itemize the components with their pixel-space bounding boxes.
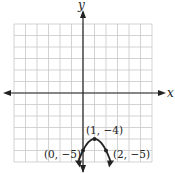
x-axis-label: x: [167, 86, 174, 100]
y-axis-label: y: [77, 0, 85, 12]
y-axis-down-arrow-icon: [80, 165, 86, 173]
x-axis-right-arrow-icon: [158, 90, 166, 96]
point-marker: [93, 137, 97, 141]
x-axis-left-arrow-icon: [3, 90, 11, 96]
curve-arrow-icon: [107, 161, 114, 168]
point-marker: [81, 149, 85, 153]
point-label-left: (0, −5): [44, 148, 81, 160]
coordinate-plane: x y (1, −4) (0, −5) (2, −5): [0, 0, 175, 173]
point-label-right: (2, −5): [113, 148, 150, 160]
x-axis: [3, 90, 166, 96]
vertex-label: (1, −4): [86, 124, 123, 136]
point-marker: [104, 149, 108, 153]
